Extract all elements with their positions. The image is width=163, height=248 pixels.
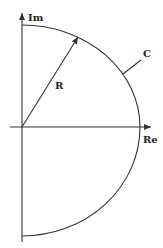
semicircle-contour — [22, 25, 140, 236]
contour-label-leader — [123, 60, 141, 74]
radius-arrow — [22, 37, 78, 127]
radius-label: R — [55, 80, 64, 91]
imaginary-axis-label: Im — [28, 12, 44, 23]
real-axis-label: Re — [143, 134, 158, 145]
contour-label: C — [143, 48, 151, 59]
contour-diagram: Im Re R C — [0, 0, 163, 248]
